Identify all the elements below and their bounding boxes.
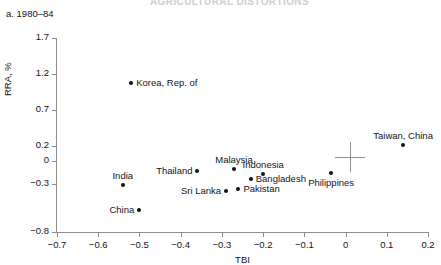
x-tick-label: 0: [343, 239, 348, 250]
y-tick-label: 1.7: [11, 31, 49, 42]
x-axis-line: [56, 232, 428, 233]
y-tick-label: 0.2: [11, 139, 49, 150]
x-tick: [181, 232, 182, 237]
data-point-label: Pakistan: [243, 183, 279, 194]
x-tick-label: −0.2: [254, 239, 273, 250]
x-tick: [222, 232, 223, 237]
scatter-plot: 1.71.20.70.20−0.3−0.8 −0.7−0.6−0.5−0.4−0…: [57, 38, 428, 232]
data-point-label: China: [109, 204, 134, 215]
data-point: [401, 143, 405, 147]
y-axis-line: [56, 38, 57, 233]
data-point: [137, 208, 141, 212]
x-tick: [139, 232, 140, 237]
panel-title: a. 1980–84: [6, 8, 54, 19]
x-tick: [304, 232, 305, 237]
x-tick-label: −0.3: [212, 239, 231, 250]
y-tick-label: −0.8: [11, 225, 49, 236]
x-tick: [263, 232, 264, 237]
data-point-label: Thailand: [156, 165, 192, 176]
data-point: [129, 81, 133, 85]
data-point: [232, 167, 236, 171]
y-tick: [52, 146, 57, 147]
y-tick: [52, 38, 57, 39]
data-point: [249, 177, 253, 181]
data-point-label: Philippines: [308, 177, 354, 188]
x-tick-label: 0.2: [421, 239, 434, 250]
x-tick: [98, 232, 99, 237]
data-point-label: Korea, Rep. of: [136, 77, 197, 88]
data-point-label: Taiwan, China: [373, 130, 433, 141]
crosshair-vertical-line: [350, 142, 351, 172]
x-tick-label: −0.5: [130, 239, 149, 250]
y-axis-label: RRA, %: [2, 62, 13, 96]
x-tick: [428, 232, 429, 237]
data-point-label: Sri Lanka: [181, 185, 221, 196]
x-tick: [387, 232, 388, 237]
y-tick: [52, 110, 57, 111]
page-header-ghost-text: AGRICULTURAL DISTORTIONS: [150, 0, 330, 8]
y-tick-label: 0.7: [11, 103, 49, 114]
y-tick-label: 1.2: [11, 67, 49, 78]
data-point: [236, 187, 240, 191]
data-point: [329, 171, 333, 175]
y-tick: [52, 74, 57, 75]
x-axis-label: TBI: [57, 254, 428, 265]
data-point-label: India: [112, 170, 133, 181]
x-tick: [346, 232, 347, 237]
x-tick-label: −0.4: [171, 239, 190, 250]
y-tick: [52, 161, 57, 162]
y-tick-label: −0.3: [11, 177, 49, 188]
x-tick-label: −0.6: [89, 239, 108, 250]
x-tick-label: −0.1: [295, 239, 314, 250]
data-point: [195, 169, 199, 173]
y-tick: [52, 184, 57, 185]
data-point: [224, 189, 228, 193]
data-point-label: Indonesia: [243, 159, 284, 170]
x-tick-label: 0.1: [380, 239, 393, 250]
x-tick-label: −0.7: [48, 239, 67, 250]
x-tick: [57, 232, 58, 237]
y-tick-label: 0: [11, 154, 49, 165]
data-point: [121, 183, 125, 187]
